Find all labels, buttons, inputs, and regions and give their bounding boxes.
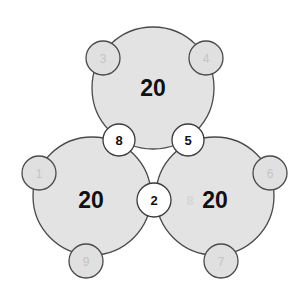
big-circle-left-label: 20: [78, 187, 104, 213]
outer-circle-3-label: 3: [100, 52, 107, 66]
big-circle-top-label: 20: [140, 75, 166, 101]
outer-circle-9-label: 9: [83, 255, 90, 269]
ghost-number: 8: [186, 193, 193, 208]
outer-circle-6-label: 6: [267, 167, 274, 181]
outer-circle-4-label: 4: [203, 52, 210, 66]
outer-circle-1-label: 1: [36, 167, 43, 181]
shared-circle-8-label: 8: [115, 133, 122, 148]
big-circle-right-label: 20: [202, 187, 228, 213]
shared-circle-5-label: 5: [184, 133, 191, 148]
outer-circle-7-label: 7: [218, 255, 225, 269]
shared-circle-2-label: 2: [150, 193, 157, 208]
three-circle-puzzle-diagram: 20 20 20 8 3 4 1 6 9 7 8 5 2: [0, 0, 305, 297]
